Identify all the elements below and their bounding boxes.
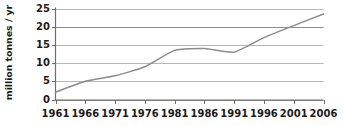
data-series-line	[56, 14, 324, 92]
line-chart: million tonnes / yr 0510152025 196119661…	[0, 0, 344, 126]
plot-area	[0, 0, 344, 126]
gridlines	[56, 10, 324, 101]
